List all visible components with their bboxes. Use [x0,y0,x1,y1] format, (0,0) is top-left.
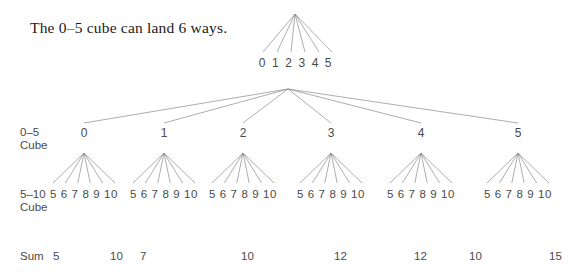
main-tree-branch-3 [288,89,331,123]
row-label-top-cube: 0–5 Cube [20,126,48,151]
top-tree-branch-5 [295,14,332,52]
subtree-5-branch-4 [518,153,537,183]
subtree-0-branch-0 [53,153,84,183]
subtree-4-branch-3 [421,153,427,183]
subtree-0-branch-5 [84,153,115,183]
subtree-3-branch-3 [331,153,337,183]
main-tree-branch-5 [288,89,518,123]
row-label-top-cube-line1: 0–5 [20,126,48,139]
sum-value-4: 12 [334,250,347,262]
subtree-0-branch-4 [84,153,103,183]
row-label-top-cube-line2: Cube [20,139,48,152]
subtree-2-branch-5 [243,153,274,183]
subtree-3-branch-2 [325,153,331,183]
subtree-1-leaf-label-row: 5 6 7 8 9 10 [130,188,198,200]
subtree-3-branch-1 [312,153,331,183]
sum-value-7: 15 [549,250,562,262]
diagram-caption: The 0–5 cube can land 6 ways. [30,19,227,37]
main-tree-node-2: 2 [240,126,247,140]
subtree-2-leaf-label-row: 5 6 7 8 9 10 [209,188,277,200]
subtree-3-leaf-label-row: 5 6 7 8 9 10 [297,188,365,200]
main-tree-node-5: 5 [515,126,522,140]
subtree-3-branch-4 [331,153,350,183]
main-tree-branch-2 [243,89,288,123]
row-label-bottom-cube-line1: 5–10 [20,188,48,201]
top-tree-branch-2 [291,14,295,52]
main-tree-node-1: 1 [161,126,168,140]
subtree-1-branch-1 [145,153,164,183]
row-label-sum: Sum [20,250,44,262]
subtree-3-branch-0 [300,153,331,183]
sum-value-5: 12 [414,250,427,262]
subtree-2-branch-0 [212,153,243,183]
subtree-5-branch-1 [499,153,518,183]
subtree-2-branch-2 [237,153,243,183]
subtree-4-branch-0 [390,153,421,183]
subtree-5-branch-2 [512,153,518,183]
top-tree-branch-4 [295,14,319,52]
subtree-4-branch-2 [415,153,421,183]
sum-value-0: 5 [53,250,59,262]
top-tree-branch-0 [263,14,295,52]
subtree-0-branch-3 [84,153,90,183]
subtree-1-branch-3 [164,153,170,183]
main-tree-branch-1 [164,89,288,123]
subtree-5-branch-5 [518,153,549,183]
subtree-1-branch-4 [164,153,183,183]
row-label-bottom-cube-line2: Cube [20,201,48,214]
main-tree-node-0: 0 [81,126,88,140]
subtree-2-branch-3 [243,153,249,183]
sum-value-6: 10 [469,250,482,262]
subtree-0-branch-1 [65,153,84,183]
subtree-1-branch-5 [164,153,195,183]
subtree-4-leaf-label-row: 5 6 7 8 9 10 [387,188,455,200]
tree-diagram-canvas: The 0–5 cube can land 6 ways. 0–5 Cube 5… [0,0,579,278]
subtree-5-branch-0 [487,153,518,183]
subtree-0-branch-2 [78,153,84,183]
subtree-4-branch-1 [402,153,421,183]
top-tree-leaf-label-row: 0 1 2 3 4 5 [259,56,333,70]
top-tree-branch-1 [277,14,295,52]
main-tree-branch-0 [84,89,288,123]
main-tree-node-3: 3 [328,126,335,140]
sum-value-2: 7 [140,250,146,262]
sum-value-3: 10 [241,250,254,262]
main-tree-node-4: 4 [418,126,425,140]
subtree-5-branch-3 [518,153,524,183]
subtree-1-branch-0 [133,153,164,183]
sum-value-1: 10 [110,250,123,262]
main-tree-branch-4 [288,89,421,123]
subtree-5-leaf-label-row: 5 6 7 8 9 10 [484,188,552,200]
subtree-4-branch-4 [421,153,440,183]
top-tree-branch-3 [295,14,305,52]
subtree-4-branch-5 [421,153,452,183]
subtree-3-branch-5 [331,153,362,183]
subtree-0-leaf-label-row: 5 6 7 8 9 10 [50,188,118,200]
row-label-bottom-cube: 5–10 Cube [20,188,48,213]
subtree-1-branch-2 [158,153,164,183]
subtree-2-branch-1 [224,153,243,183]
subtree-2-branch-4 [243,153,262,183]
